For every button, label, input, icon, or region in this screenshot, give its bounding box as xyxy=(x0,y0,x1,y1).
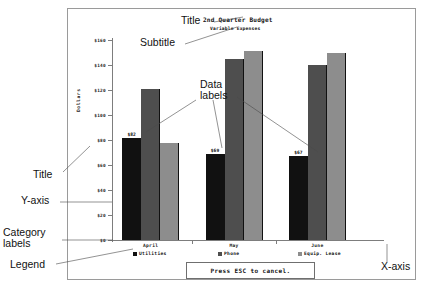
legend-label: Utilities xyxy=(139,251,167,256)
bar-april-equip-lease xyxy=(160,143,179,241)
y-axis-tick-label: $100 xyxy=(94,113,106,118)
y-axis-tick-label: $40 xyxy=(97,188,106,193)
chart-title: 2nd Quarter Budget xyxy=(203,16,273,23)
bar-may-equip-lease xyxy=(244,51,263,240)
bar-may-utilities xyxy=(206,154,225,240)
y-axis-tick-label: $120 xyxy=(94,88,106,93)
y-axis-title: Dollars xyxy=(76,88,81,112)
legend-label: Equip. Lease xyxy=(304,251,341,256)
data-label-june-utilities: $67 xyxy=(294,150,302,155)
annotation-x-axis-text: X-axis xyxy=(381,260,410,272)
bar-june-equip-lease xyxy=(327,53,346,241)
y-axis-tick-label: $0 xyxy=(100,238,106,243)
annotation-legend-text: Legend xyxy=(10,258,45,270)
y-axis-tick-label: $20 xyxy=(97,213,106,218)
legend-swatch-icon xyxy=(298,252,302,256)
annotation-data-labels: Data labels xyxy=(200,79,227,101)
status-box: Press ESC to cancel. xyxy=(186,262,315,279)
annotation-subtitle-text: Subtitle xyxy=(140,36,175,48)
category-label-may: May xyxy=(229,243,238,248)
legend-item-utilities: Utilities xyxy=(133,251,167,256)
x-axis-line xyxy=(112,240,384,241)
annotation-subtitle: Subtitle xyxy=(140,37,175,48)
y-axis-tick-label: $160 xyxy=(94,38,106,43)
plot-area xyxy=(113,40,363,240)
y-axis-tick-label: $140 xyxy=(94,63,106,68)
y-axis-tick-label: $60 xyxy=(97,163,106,168)
y-axis-tick xyxy=(108,240,113,241)
chart-screenshot: 2nd Quarter Budget Variable Expenses Dol… xyxy=(0,0,433,294)
annotation-title-text: Title xyxy=(181,14,200,26)
bar-june-utilities xyxy=(289,156,308,240)
annotation-category-labels-line2: labels xyxy=(3,238,46,249)
legend-swatch-icon xyxy=(218,252,222,256)
category-label-june: June xyxy=(311,243,323,248)
bar-april-phone xyxy=(141,89,160,240)
annotation-y-axis-text: Y-axis xyxy=(21,194,49,206)
annotation-x-axis: X-axis xyxy=(381,261,410,272)
status-message: Press ESC to cancel. xyxy=(210,267,290,274)
chart-legend: UtilitiesPhoneEquip. Lease xyxy=(113,251,363,261)
legend-item-equip-lease: Equip. Lease xyxy=(298,251,341,256)
annotation-category-labels: Category labels xyxy=(3,227,46,249)
data-label-april-utilities: $82 xyxy=(128,132,136,137)
category-label-april: April xyxy=(143,243,158,248)
annotation-legend: Legend xyxy=(10,259,45,270)
x-axis-tick xyxy=(276,240,277,244)
bar-april-utilities xyxy=(122,138,141,241)
legend-item-phone: Phone xyxy=(218,251,239,256)
annotation-y-axis-title-text: Title xyxy=(33,168,52,180)
annotation-y-axis: Y-axis xyxy=(21,195,49,206)
chart-subtitle: Variable Expenses xyxy=(210,26,260,31)
x-axis-tick xyxy=(192,240,193,244)
annotation-title: Title xyxy=(181,15,200,26)
annotation-y-axis-title: Title xyxy=(33,169,52,180)
bar-june-phone xyxy=(308,65,327,240)
y-axis-tick-label: $80 xyxy=(97,138,106,143)
data-label-may-utilities: $69 xyxy=(211,148,219,153)
legend-swatch-icon xyxy=(133,252,137,256)
legend-label: Phone xyxy=(224,251,239,256)
annotation-data-labels-line2: labels xyxy=(200,90,227,101)
